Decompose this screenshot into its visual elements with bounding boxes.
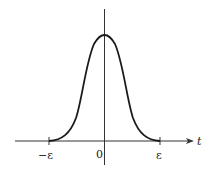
bump-function-plot — [0, 0, 211, 174]
x-axis-label: t — [197, 136, 201, 147]
tick-label-neg-epsilon: −ε — [38, 150, 53, 161]
tick-label-epsilon: ε — [156, 150, 162, 161]
tick-label-zero: 0 — [96, 149, 103, 160]
